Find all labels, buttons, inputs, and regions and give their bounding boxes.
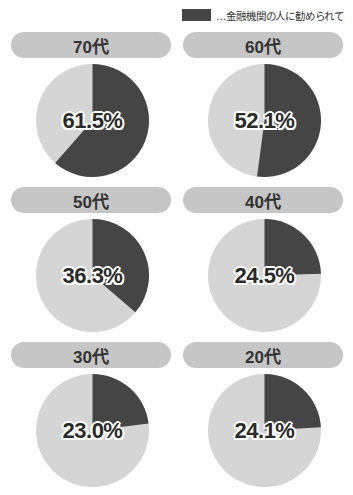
panel-title: 50代 [11, 187, 171, 213]
panel-title: 40代 [183, 187, 343, 213]
panel-title: 30代 [11, 342, 171, 368]
percent-label: 52.1% [183, 64, 346, 177]
panel-40s: 40代 24.5% [183, 187, 343, 337]
panel-title: 70代 [11, 32, 171, 58]
panel-20s: 20代 24.1% [183, 342, 343, 492]
legend-label: …金融機関の人に勧められて [216, 8, 344, 23]
percent-label: 61.5% [11, 64, 174, 177]
panel-title: 60代 [183, 32, 343, 58]
legend-swatch [182, 9, 211, 21]
panel-50s: 50代 36.3% [11, 187, 171, 337]
percent-label: 36.3% [11, 219, 174, 332]
panel-60s: 60代 52.1% [183, 32, 343, 182]
panel-30s: 30代 23.0% [11, 342, 171, 492]
legend: …金融機関の人に勧められて [182, 8, 344, 22]
percent-label: 24.5% [183, 219, 346, 332]
panel-title: 20代 [183, 342, 343, 368]
percent-label: 24.1% [183, 374, 346, 487]
percent-label: 23.0% [11, 374, 174, 487]
panel-70s: 70代 61.5% [11, 32, 171, 182]
